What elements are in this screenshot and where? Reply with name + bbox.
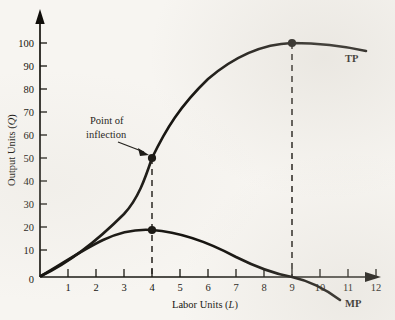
y-tick-label-80: 80: [24, 84, 35, 95]
y-tick-label-40: 40: [24, 176, 35, 187]
x-axis-title: Labor Units (L): [172, 299, 238, 311]
x-axis-tick-labels: 1 2 3 4 5 6 7 8 9 10 11 12: [65, 282, 381, 293]
x-axis-title-close: ): [234, 299, 238, 311]
y-tick-label-70: 70: [24, 107, 35, 118]
y-axis-arrowhead: [35, 9, 44, 24]
annotation-arrowhead: [138, 148, 149, 156]
y-tick-label-0: 0: [29, 274, 34, 285]
y-axis-title-main: Output Units (: [6, 125, 18, 186]
y-axis-title: Output Units (Q): [6, 114, 18, 186]
y-tick-label-60: 60: [24, 130, 35, 141]
x-tick-label-7: 7: [233, 282, 238, 293]
x-tick-label-2: 2: [93, 282, 98, 293]
x-tick-label-11: 11: [343, 282, 353, 293]
mp-curve: [41, 230, 340, 300]
x-axis-title-main: Labor Units (: [172, 299, 229, 311]
chart-canvas: 100 90 80 70 60 50 40 30 20 10 0: [0, 0, 395, 320]
mp-curve-label: MP: [345, 298, 362, 309]
y-tick-label-100: 100: [18, 38, 34, 49]
point-of-inflection-annotation: Point of inflection: [86, 115, 149, 156]
x-axis-arrowhead: [365, 272, 381, 282]
x-tick-label-3: 3: [121, 282, 126, 293]
x-axis-ticks: [68, 269, 376, 277]
marker-point-of-inflection: [148, 154, 156, 162]
x-tick-label-12: 12: [371, 282, 382, 293]
x-tick-label-5: 5: [177, 282, 182, 293]
y-tick-label-50: 50: [24, 153, 35, 164]
x-tick-label-6: 6: [205, 282, 210, 293]
x-tick-label-8: 8: [261, 282, 266, 293]
y-tick-label-30: 30: [24, 199, 35, 210]
y-axis-title-close: ): [6, 114, 18, 118]
x-tick-label-9: 9: [289, 282, 294, 293]
x-tick-label-4: 4: [149, 282, 155, 293]
x-tick-label-1: 1: [65, 282, 70, 293]
tp-curve-label: TP: [345, 53, 359, 64]
economics-production-figure: 100 90 80 70 60 50 40 30 20 10 0: [0, 0, 395, 320]
annotation-line-2: inflection: [86, 129, 127, 140]
y-tick-label-20: 20: [24, 222, 35, 233]
y-axis-ticks: [40, 43, 47, 250]
y-axis-tick-labels: 100 90 80 70 60 50 40 30 20 10 0: [18, 38, 34, 285]
y-tick-label-90: 90: [24, 61, 35, 72]
marker-mp-maximum: [148, 226, 156, 234]
annotation-line-1: Point of: [90, 115, 124, 126]
y-tick-label-10: 10: [24, 245, 35, 256]
axes-group: [35, 9, 381, 282]
marker-tp-maximum: [288, 39, 296, 47]
